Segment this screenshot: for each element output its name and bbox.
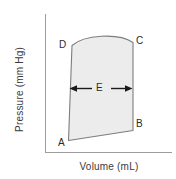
- point-label-d: D: [59, 39, 66, 50]
- figure-canvas: [0, 0, 176, 179]
- point-label-a: A: [58, 137, 65, 148]
- pv-loop-figure: Pressure (mm Hg) Volume (mL) A B C D E: [0, 0, 176, 179]
- point-label-e: E: [96, 82, 103, 93]
- y-axis-label: Pressure (mm Hg): [14, 35, 25, 145]
- x-axis-label: Volume (mL): [53, 161, 165, 172]
- point-label-b: B: [136, 118, 143, 129]
- point-label-c: C: [136, 35, 143, 46]
